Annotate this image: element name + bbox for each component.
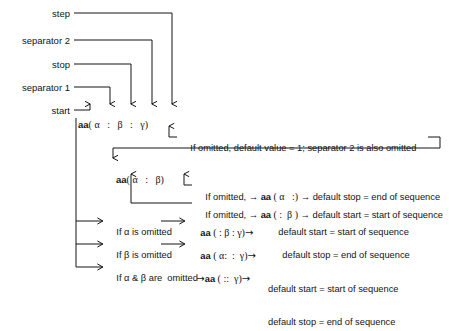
case-alpha-beta-code: ( :: γ) [215,273,242,284]
case-beta-arrow: → [248,250,256,261]
case-alpha-arrow: → [245,227,253,238]
note-step-omitted: If omitted, default value = 1; separator… [180,132,416,165]
callout-label-start: start [0,105,70,116]
case-condition-alpha-beta-omitted: If α & β are omitted [106,262,198,295]
case-alpha-beta-arrow-out: → [242,273,250,284]
case-beta-code-prefix: aa [200,251,210,261]
case-beta-result-line-1: default stop = end of sequence [282,250,409,260]
case-alpha-condition-text: If α is omitted [116,227,172,237]
syntax-full-args: ( α : β : γ) [89,119,148,130]
syntax-line-two-arg: aa( α : β) [106,163,164,196]
elbow-stop-omitted [184,180,192,185]
case-beta-condition-text: If β is omitted [116,250,171,260]
case-alpha-beta-arrow-in: → [196,273,204,284]
case-alpha-beta-result-line-2: default stop = end of sequence [268,317,399,328]
case-alpha-beta-result-line-1: default start = start of sequence [268,284,399,295]
leader-separator-2 [74,40,152,104]
syntax-two-arg-prefix: aa [116,174,127,185]
case-alpha-beta-code-prefix: aa [205,274,215,284]
callout-label-step: step [0,8,70,19]
case-alpha-code: ( : β : γ) [211,227,245,238]
callout-label-stop: stop [0,59,70,70]
case-alpha-code-prefix: aa [200,228,210,238]
callout-label-separator-2: separator 2 [0,35,70,46]
callout-label-separator-1: separator 1 [0,82,70,93]
leader-stop [74,64,131,104]
case-beta-code: ( α: : γ) [211,250,248,261]
case-alpha-result-line-1: default start = start of sequence [278,227,409,237]
leader-separator-1 [74,87,110,104]
syntax-full-prefix: aa [78,119,89,130]
leader-step [74,13,172,104]
case-code-alpha-beta-omitted: →aa ( :: γ)→ [186,262,250,296]
elbow-step-omitted [169,132,177,137]
case-result-alpha-beta-omitted: default start = start of sequence defaul… [268,262,399,331]
note-step-omitted-text: If omitted, default value = 1; separator… [190,143,416,153]
syntax-line-full: aa( α : β : γ) [68,108,148,141]
syntax-two-arg-args: ( α : β) [127,174,164,185]
